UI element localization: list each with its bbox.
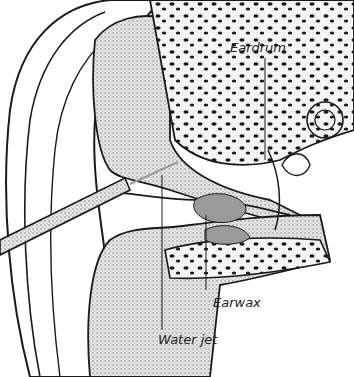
lower-bone [165, 238, 330, 278]
label-earwax: Earwax [213, 295, 261, 310]
ear-illustration [0, 0, 354, 377]
ear-irrigation-diagram: Eardrum Earwax Water jet [0, 0, 354, 377]
label-eardrum: Eardrum [230, 40, 286, 55]
label-water-jet: Water jet [158, 332, 217, 347]
